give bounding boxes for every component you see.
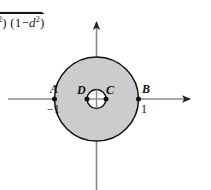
label-plus-one: 1 — [141, 103, 147, 115]
point-D — [85, 97, 90, 102]
label-C: C — [106, 84, 114, 96]
label-A: A — [50, 83, 58, 95]
point-A — [52, 97, 57, 102]
formula-fragment: 2) (1−d2) — [0, 11, 44, 31]
label-D: D — [77, 84, 86, 96]
label-minus-one: −1 — [47, 103, 60, 115]
point-C — [104, 97, 109, 102]
point-B — [136, 97, 141, 102]
label-B: B — [142, 83, 150, 95]
